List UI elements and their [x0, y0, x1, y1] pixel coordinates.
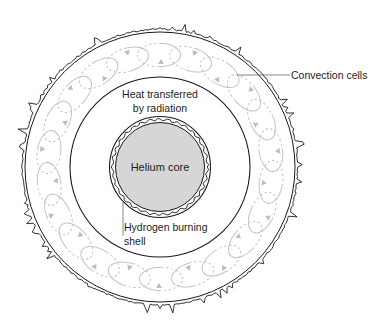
- convection-cell: [39, 190, 78, 239]
- label-convection-cells: Convection cells: [291, 69, 367, 81]
- convection-cell: [167, 42, 215, 77]
- convection-cell: [34, 129, 63, 175]
- convection-arrow-icon: [185, 265, 192, 271]
- convection-arrow-icon: [67, 85, 75, 93]
- convection-arrow-icon: [275, 148, 281, 155]
- label-hydrogen-shell-line1: Hydrogen burning: [124, 221, 208, 233]
- convection-arrow-icon: [214, 75, 222, 82]
- convection-cell: [242, 95, 281, 144]
- label-radiation-line2: by radiation: [133, 102, 187, 114]
- convection-arrow-icon: [191, 50, 198, 56]
- label-radiation-line1: Heat transferred: [122, 88, 198, 100]
- convection-arrow-icon: [91, 262, 99, 269]
- convection-arrow-icon: [219, 263, 227, 270]
- convection-arrow-icon: [61, 119, 68, 127]
- convection-cell: [168, 257, 216, 292]
- convection-cell: [256, 127, 285, 173]
- convection-arrow-icon: [126, 265, 133, 271]
- convection-arrow-icon: [253, 120, 260, 128]
- convection-arrow-icon: [52, 178, 58, 185]
- convection-arrow-icon: [156, 283, 162, 288]
- convection-arrow-icon: [124, 50, 131, 56]
- convection-arrow-icon: [235, 233, 243, 241]
- convection-cell: [105, 257, 153, 292]
- convection-arrow-icon: [76, 231, 84, 239]
- convection-arrow-icon: [158, 59, 164, 64]
- convection-cell: [103, 42, 151, 77]
- convection-arrow-icon: [48, 212, 55, 220]
- convection-cell: [256, 159, 285, 205]
- convection-arrow-icon: [100, 74, 108, 81]
- convection-arrow-icon: [40, 146, 46, 153]
- convection-arrow-icon: [261, 180, 267, 187]
- convection-cell: [35, 161, 64, 207]
- star-structure-diagram: Helium core Heat transferred by radiatio…: [0, 0, 381, 328]
- label-hydrogen-shell-line2: shell: [124, 235, 146, 247]
- label-helium-core: Helium core: [131, 161, 190, 173]
- convection-arrow-icon: [264, 213, 271, 221]
- convection-arrow-icon: [246, 86, 254, 94]
